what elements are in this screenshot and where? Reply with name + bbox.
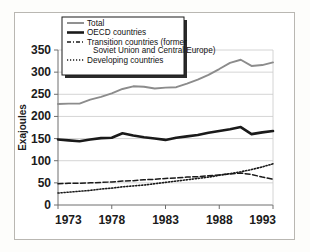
figure-canvas: 3503002502001501005001973197819831988199… xyxy=(0,0,310,252)
legend-label-4: Developing countries xyxy=(87,56,163,65)
x-tick-label-1973: 1973 xyxy=(55,213,82,227)
y-tick-label-200: 200 xyxy=(31,109,51,123)
y-tick-label-350: 350 xyxy=(31,43,51,57)
legend-item-3: Soviet Union and Central Europe) xyxy=(93,46,216,55)
y-tick-label-150: 150 xyxy=(31,132,51,146)
y-tick-label-250: 250 xyxy=(31,87,51,101)
y-axis-title: Exajoules xyxy=(17,104,28,151)
line-chart: 3503002502001501005001973197819831988199… xyxy=(0,0,310,252)
legend-label-1: OECD countries xyxy=(87,28,146,37)
x-tick-label-1988: 1988 xyxy=(206,213,233,227)
legend-label-0: Total xyxy=(87,19,104,28)
legend-label-3: Soviet Union and Central Europe) xyxy=(93,46,216,55)
y-tick-label-300: 300 xyxy=(31,65,51,79)
x-tick-label-1978: 1978 xyxy=(98,213,125,227)
x-tick-label-1983: 1983 xyxy=(152,213,179,227)
y-tick-label-0: 0 xyxy=(44,198,51,212)
y-tick-label-50: 50 xyxy=(38,176,52,190)
x-tick-label-1993: 1993 xyxy=(249,213,276,227)
y-tick-label-100: 100 xyxy=(31,154,51,168)
